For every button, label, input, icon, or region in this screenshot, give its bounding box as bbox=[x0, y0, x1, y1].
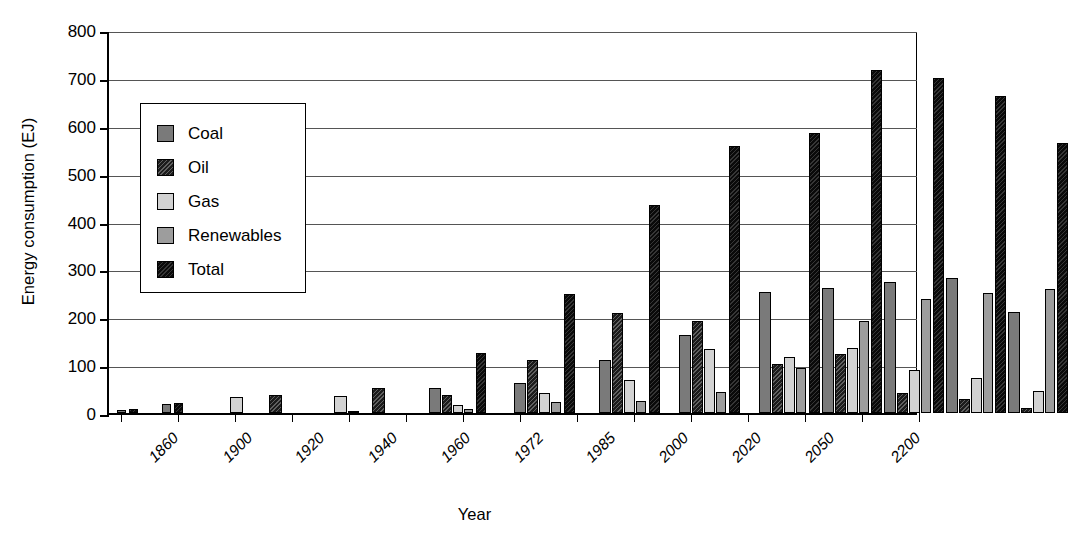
bar-coal-44 bbox=[946, 278, 958, 413]
x-tick-label-1920: 1920 bbox=[291, 429, 328, 466]
bar-coal-24 bbox=[679, 335, 691, 413]
x-tick-12 bbox=[805, 413, 806, 422]
bar-oil-30 bbox=[772, 364, 783, 413]
bar-total-13 bbox=[476, 353, 486, 413]
legend-swatch-icon-total bbox=[157, 261, 174, 278]
y-tick-700 bbox=[100, 80, 109, 82]
bar-oil-40 bbox=[897, 393, 908, 413]
x-tick-3 bbox=[292, 413, 293, 422]
gridline-800 bbox=[109, 32, 917, 33]
bar-coal-34 bbox=[822, 288, 834, 413]
legend-swatch-icon-gas bbox=[157, 193, 174, 210]
x-axis-title: Year bbox=[0, 505, 949, 524]
bar-renew-12 bbox=[464, 409, 473, 413]
x-tick-label-2050: 2050 bbox=[801, 429, 838, 466]
bar-total-43 bbox=[933, 78, 944, 413]
bar-total-33 bbox=[809, 133, 820, 413]
bar-renew-32 bbox=[796, 368, 806, 413]
legend-label: Oil bbox=[188, 159, 209, 176]
x-tick-9 bbox=[634, 413, 635, 422]
legend-label: Gas bbox=[188, 193, 219, 210]
bar-coal-39 bbox=[884, 282, 896, 413]
bar-renew-42 bbox=[921, 299, 931, 413]
x-tick-2 bbox=[235, 413, 236, 422]
x-tick-11 bbox=[748, 413, 749, 422]
y-tick-label-800: 800 bbox=[68, 22, 96, 42]
x-tick-label-1985: 1985 bbox=[582, 429, 619, 466]
legend-label: Coal bbox=[188, 125, 223, 142]
bar-oil-8 bbox=[372, 388, 385, 413]
bar-oil-45 bbox=[959, 399, 970, 413]
bar-total-1 bbox=[129, 409, 138, 413]
bar-oil-5 bbox=[269, 395, 282, 413]
y-tick-400 bbox=[100, 224, 109, 226]
bar-coal-2 bbox=[162, 404, 171, 413]
x-tick-7 bbox=[520, 413, 521, 422]
bar-coal-29 bbox=[759, 292, 771, 413]
y-tick-200 bbox=[100, 319, 109, 321]
x-tick-14 bbox=[919, 413, 920, 422]
bar-total-38 bbox=[871, 70, 882, 413]
x-tick-label-1960: 1960 bbox=[437, 429, 474, 466]
x-tick-5 bbox=[406, 413, 407, 422]
x-tick-label-1900: 1900 bbox=[219, 429, 256, 466]
legend-swatch-icon-coal bbox=[157, 125, 174, 142]
bar-gas-21 bbox=[624, 380, 635, 414]
y-tick-label-0: 0 bbox=[87, 405, 96, 425]
bar-oil-10 bbox=[442, 395, 452, 413]
bar-total-3 bbox=[174, 403, 183, 413]
bar-oil-20 bbox=[612, 313, 623, 413]
y-tick-500 bbox=[100, 176, 109, 178]
bar-renew-47 bbox=[983, 293, 993, 413]
bar-oil-35 bbox=[835, 354, 846, 413]
y-tick-label-700: 700 bbox=[68, 70, 96, 90]
bar-coal-14 bbox=[514, 383, 526, 413]
x-tick-4 bbox=[349, 413, 350, 422]
bar-renew-22 bbox=[636, 401, 646, 413]
y-tick-label-600: 600 bbox=[68, 118, 96, 138]
bar-gas-4 bbox=[230, 397, 243, 413]
y-tick-label-100: 100 bbox=[68, 357, 96, 377]
x-tick-label-1860: 1860 bbox=[145, 429, 182, 466]
x-tick-label-2020: 2020 bbox=[728, 429, 765, 466]
legend-label: Total bbox=[188, 261, 224, 278]
x-tick-label-1972: 1972 bbox=[510, 429, 547, 466]
bar-total-23 bbox=[649, 205, 660, 413]
bar-total-53 bbox=[1057, 143, 1068, 413]
gridline-200 bbox=[109, 319, 917, 320]
x-tick-1 bbox=[178, 413, 179, 422]
bar-renew-37 bbox=[859, 321, 869, 413]
bar-gas-31 bbox=[784, 357, 795, 413]
legend-item-renewables: Renewables bbox=[157, 218, 305, 252]
bar-gas-41 bbox=[909, 370, 920, 413]
bar-coal-0 bbox=[117, 410, 126, 413]
bar-total-28 bbox=[729, 146, 740, 413]
y-tick-800 bbox=[100, 32, 109, 34]
bar-gas-16 bbox=[539, 393, 550, 413]
y-tick-label-200: 200 bbox=[68, 309, 96, 329]
bar-gas-46 bbox=[971, 378, 982, 413]
y-tick-600 bbox=[100, 128, 109, 130]
x-tick-6 bbox=[463, 413, 464, 422]
bar-coal-9 bbox=[429, 388, 441, 413]
x-tick-13 bbox=[862, 413, 863, 422]
y-tick-100 bbox=[100, 367, 109, 369]
x-tick-label-2200: 2200 bbox=[887, 429, 924, 466]
chart-legend: CoalOilGasRenewablesTotal bbox=[140, 103, 306, 293]
bar-gas-26 bbox=[704, 349, 715, 413]
x-tick-10 bbox=[691, 413, 692, 422]
y-tick-label-400: 400 bbox=[68, 214, 96, 234]
legend-item-gas: Gas bbox=[157, 184, 305, 218]
bar-gas-51 bbox=[1033, 391, 1044, 413]
legend-item-oil: Oil bbox=[157, 150, 305, 184]
y-tick-label-500: 500 bbox=[68, 166, 96, 186]
bar-gas-6 bbox=[334, 396, 347, 413]
bar-oil-25 bbox=[692, 321, 703, 413]
legend-item-coal: Coal bbox=[157, 116, 305, 150]
y-tick-300 bbox=[100, 271, 109, 273]
bar-coal-49 bbox=[1008, 312, 1020, 413]
bar-coal-19 bbox=[599, 360, 611, 413]
legend-swatch-icon-renewables bbox=[157, 227, 174, 244]
bar-renew-7 bbox=[348, 411, 359, 413]
y-axis-title: Energy consumption (EJ) bbox=[19, 47, 38, 377]
